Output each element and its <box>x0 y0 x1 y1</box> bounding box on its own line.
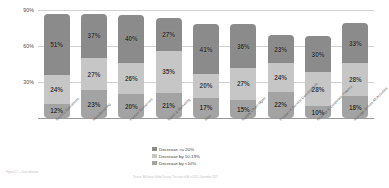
bar-segment-decrease-under-10: 21% <box>156 93 182 118</box>
bar-segment-decrease-under-10: 22% <box>268 92 294 118</box>
legend-label: Decrease by 10-19% <box>159 154 200 159</box>
bar-segment-decrease-20-plus: 33% <box>342 23 368 63</box>
legend-swatch-icon <box>152 154 157 159</box>
y-tick-label-60: 60% <box>6 43 34 49</box>
bar-segment-decrease-20-plus: 51% <box>44 14 70 75</box>
bar-segment-decrease-10-19: 24% <box>44 75 70 104</box>
bar-group[interactable]: 41%20%17% <box>193 24 219 118</box>
bar-segment-decrease-20-plus: 30% <box>305 36 331 72</box>
legend-label: Decrease >= 20% <box>159 147 194 152</box>
bar-segment-decrease-20-plus: 36% <box>230 24 256 67</box>
bar-segment-decrease-10-19: 27% <box>81 58 107 90</box>
bar-segment-decrease-10-19: 27% <box>230 68 256 100</box>
bar-series-group: 51%24%12%37%27%23%40%26%20%27%35%21%41%2… <box>38 10 374 118</box>
bar-group[interactable]: 51%24%12% <box>44 14 70 118</box>
x-axis-labels: Service OperationsManufacturingHuman Res… <box>38 119 374 155</box>
bar-segment-decrease-20-plus: 23% <box>268 35 294 63</box>
y-tick-label-30: 30% <box>6 79 34 85</box>
bar-segment-decrease-10-19: 20% <box>193 74 219 98</box>
bar-group[interactable]: 30%28%10% <box>305 36 331 118</box>
y-tick-label-90: 90% <box>6 7 34 13</box>
footer-source-note: Source: McKinsey Global Survey, The stat… <box>133 176 218 179</box>
bar-group[interactable]: 36%27%15% <box>230 24 256 118</box>
plot-area: 51%24%12%37%27%23%40%26%20%27%35%21%41%2… <box>38 10 374 118</box>
legend-item[interactable]: Decrease by 10-19% <box>152 153 200 159</box>
bar-group[interactable]: 37%27%23% <box>81 14 107 118</box>
legend-swatch-icon <box>152 147 157 152</box>
bar-segment-decrease-20-plus: 40% <box>118 15 144 63</box>
bar-group[interactable]: 33%28%18% <box>342 23 368 118</box>
legend-label: Decrease by <10% <box>159 161 196 166</box>
footer-left-caption: Figure 2.7 — Cost reduction <box>6 171 38 174</box>
legend-item[interactable]: Decrease >= 20% <box>152 146 200 152</box>
bar-segment-decrease-under-10: 23% <box>81 90 107 118</box>
legend-item[interactable]: Decrease by <10% <box>152 160 200 166</box>
bar-segment-decrease-10-19: 26% <box>118 63 144 94</box>
bar-group[interactable]: 40%26%20% <box>118 15 144 118</box>
bar-segment-decrease-20-plus: 41% <box>193 24 219 73</box>
bar-group[interactable]: 23%24%22% <box>268 35 294 118</box>
legend-swatch-icon <box>152 161 157 166</box>
bar-segment-decrease-20-plus: 27% <box>156 18 182 50</box>
bar-segment-decrease-20-plus: 37% <box>81 14 107 58</box>
bar-segment-decrease-10-19: 24% <box>268 63 294 92</box>
chart-legend: Decrease >= 20%Decrease by 10-19%Decreas… <box>152 146 200 166</box>
bar-group[interactable]: 27%35%21% <box>156 18 182 118</box>
bar-segment-decrease-under-10: 17% <box>193 98 219 118</box>
bar-segment-decrease-10-19: 35% <box>156 51 182 93</box>
